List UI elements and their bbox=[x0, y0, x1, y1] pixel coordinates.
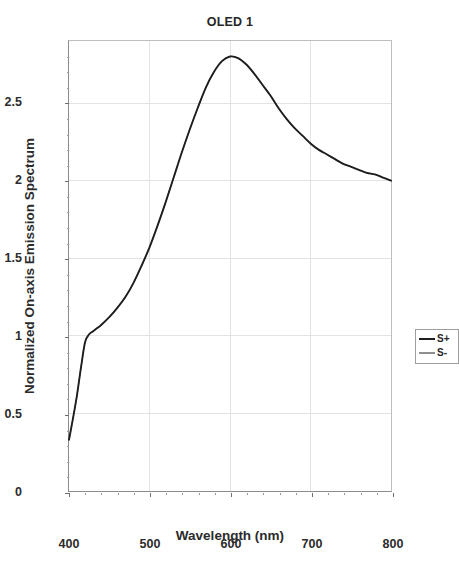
x-tick-mark-minor bbox=[101, 493, 102, 495]
x-tick-mark-minor bbox=[199, 493, 200, 495]
x-tick-mark bbox=[69, 493, 70, 497]
y-tick-mark-minor bbox=[67, 150, 69, 151]
legend-label-sminus: S- bbox=[437, 347, 447, 359]
legend-entry-sminus[interactable]: S- bbox=[419, 346, 455, 360]
legend-line-icon-splus bbox=[419, 338, 435, 340]
x-tick-mark-minor bbox=[85, 493, 86, 495]
legend-line-icon-sminus bbox=[419, 352, 435, 354]
y-tick-mark-minor bbox=[67, 446, 69, 447]
y-tick-mark-minor bbox=[67, 72, 69, 73]
y-tick-mark-minor bbox=[67, 57, 69, 58]
plot-area: 400500600700800 S+ S- bbox=[68, 40, 392, 492]
y-tick-mark-minor bbox=[67, 275, 69, 276]
x-axis-title: Wavelength (nm) bbox=[68, 528, 392, 543]
x-tick-mark-minor bbox=[280, 493, 281, 495]
y-tick-mark-minor bbox=[67, 119, 69, 120]
y-tick-mark-minor bbox=[67, 462, 69, 463]
y-tick-mark-minor bbox=[67, 353, 69, 354]
y-tick-label: 1 bbox=[15, 329, 28, 343]
x-tick-mark-minor bbox=[215, 493, 216, 495]
y-tick-mark-minor bbox=[67, 368, 69, 369]
y-tick-mark-minor bbox=[67, 477, 69, 478]
x-tick-mark bbox=[312, 493, 313, 497]
x-tick-mark bbox=[231, 493, 232, 497]
y-tick-mark-minor bbox=[67, 228, 69, 229]
x-tick-mark-minor bbox=[134, 493, 135, 495]
y-tick-mark bbox=[65, 415, 69, 416]
x-tick-mark-minor bbox=[377, 493, 378, 495]
x-tick-mark-minor bbox=[263, 493, 264, 495]
series-line-splus bbox=[69, 56, 391, 439]
y-tick-mark-minor bbox=[67, 212, 69, 213]
x-tick-mark-minor bbox=[344, 493, 345, 495]
y-tick-mark-minor bbox=[67, 384, 69, 385]
x-tick-mark-minor bbox=[328, 493, 329, 495]
y-tick-mark-minor bbox=[67, 399, 69, 400]
x-tick-mark-minor bbox=[118, 493, 119, 495]
x-tick-mark-minor bbox=[361, 493, 362, 495]
y-tick-mark bbox=[65, 103, 69, 104]
y-tick-mark bbox=[65, 337, 69, 338]
x-tick-mark-minor bbox=[166, 493, 167, 495]
y-tick-mark-minor bbox=[67, 306, 69, 307]
y-tick-label: 0 bbox=[15, 485, 28, 499]
curve-layer bbox=[69, 41, 391, 491]
y-tick-label: 0.5 bbox=[5, 407, 28, 421]
y-tick-label: 1.5 bbox=[5, 251, 28, 265]
y-tick-label: 2.5 bbox=[5, 95, 28, 109]
legend-entry-splus[interactable]: S+ bbox=[419, 332, 455, 346]
x-tick-mark bbox=[393, 493, 394, 497]
y-tick-label: 2 bbox=[15, 173, 28, 187]
y-tick-mark bbox=[65, 259, 69, 260]
y-tick-mark bbox=[65, 181, 69, 182]
y-tick-mark-minor bbox=[67, 88, 69, 89]
y-tick-mark bbox=[65, 493, 69, 494]
y-tick-mark-minor bbox=[67, 197, 69, 198]
y-tick-mark-minor bbox=[67, 166, 69, 167]
y-tick-mark-minor bbox=[67, 322, 69, 323]
legend-label-splus: S+ bbox=[437, 333, 450, 345]
x-tick-mark-minor bbox=[296, 493, 297, 495]
series-line-sminus bbox=[69, 56, 391, 439]
y-tick-mark-minor bbox=[67, 431, 69, 432]
y-tick-mark-minor bbox=[67, 135, 69, 136]
x-tick-mark-minor bbox=[182, 493, 183, 495]
chart-legend[interactable]: S+ S- bbox=[415, 329, 459, 364]
x-tick-mark bbox=[150, 493, 151, 497]
y-tick-mark-minor bbox=[67, 244, 69, 245]
y-tick-mark-minor bbox=[67, 290, 69, 291]
x-tick-mark-minor bbox=[247, 493, 248, 495]
chart-title: OLED 1 bbox=[68, 14, 392, 30]
